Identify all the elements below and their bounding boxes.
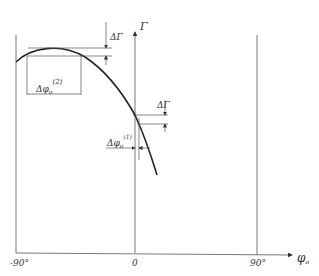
gamma-curve xyxy=(16,48,157,175)
x-tick-90: 90° xyxy=(250,258,266,268)
delta-gamma-right-label: ΔΓ xyxy=(156,100,170,110)
diagram-canvas: ΔΓ Δφo(2) ΔΓ Δφo(1) Γ φo -90° 0 90° xyxy=(0,0,319,276)
delta-gamma-top-label: ΔΓ xyxy=(109,32,123,42)
delta-phi-1-label: Δφo(1) xyxy=(106,133,133,149)
y-axis-label: Γ xyxy=(139,20,148,33)
x-axis xyxy=(16,253,292,255)
x-tick-0: 0 xyxy=(132,258,138,268)
delta-phi-2-label: Δφo(2) xyxy=(35,78,63,95)
x-axis-label: φo xyxy=(297,251,309,265)
x-tick-neg90: -90° xyxy=(10,258,29,268)
